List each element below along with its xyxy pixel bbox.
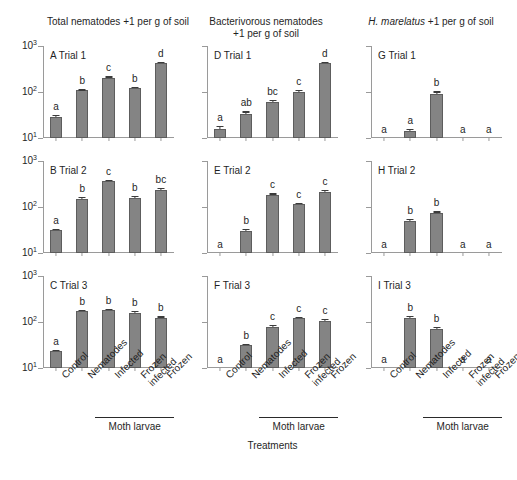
- moth-larvae-bracket: [423, 417, 502, 418]
- x-tick: [462, 253, 463, 256]
- significance-letter: a: [381, 240, 387, 250]
- significance-letter: c: [322, 306, 327, 316]
- y-tick: [38, 322, 43, 323]
- column-title-bacterivorous: Bacterivorous nematodes +1 per g of soil: [186, 16, 346, 40]
- significance-letter: a: [460, 240, 466, 250]
- bar: [240, 231, 252, 253]
- significance-letter: b: [434, 198, 440, 208]
- error-bar-cap: [407, 129, 414, 130]
- y-tick: [202, 207, 207, 208]
- error-bar-cap: [321, 62, 328, 63]
- error-bar-cap: [131, 87, 138, 88]
- panel-b: 101102103B Trial 2abcbbc: [43, 161, 174, 253]
- bar: [266, 102, 278, 138]
- species-name: H. marelatus: [368, 16, 425, 27]
- x-tick: [134, 368, 135, 371]
- x-tick: [384, 253, 385, 256]
- x-tick: [82, 138, 83, 141]
- column-title-bacterivorous-line1: Bacterivorous nematodes: [186, 16, 346, 28]
- significance-letter: c: [296, 190, 301, 200]
- error-bar-cap: [407, 316, 414, 317]
- x-tick-label-line: infected: [146, 380, 154, 388]
- bar: [293, 92, 305, 138]
- significance-letter: c: [106, 63, 111, 73]
- bar: [129, 88, 141, 138]
- significance-letter: b: [408, 206, 414, 216]
- x-tick: [134, 138, 135, 141]
- error-bar-cap: [269, 193, 276, 194]
- significance-letter: a: [381, 355, 387, 365]
- moth-larvae-label: Moth larvae: [437, 421, 489, 432]
- significance-letter: a: [381, 125, 387, 135]
- y-axis-line: [43, 276, 44, 368]
- x-tick-label: Nematodes: [86, 372, 94, 380]
- x-tick-label-line: Nematodes: [250, 372, 258, 380]
- y-tick-label: 102: [22, 202, 37, 212]
- significance-letter: d: [322, 49, 328, 59]
- x-tick-label: Frozeninfected: [302, 372, 318, 388]
- error-bar-cap: [217, 126, 224, 127]
- significance-letter: b: [158, 303, 164, 313]
- x-tick: [246, 138, 247, 141]
- moth-larvae-label: Moth larvae: [273, 421, 325, 432]
- y-tick: [202, 161, 207, 162]
- y-tick: [366, 161, 371, 162]
- significance-letter: a: [217, 113, 223, 123]
- x-tick-label-line: Control: [387, 372, 395, 380]
- error-bar-cap: [157, 316, 164, 317]
- panel-label: G Trial 1: [378, 50, 416, 61]
- x-tick: [436, 368, 437, 371]
- plot-area: 101102103A Trial 1abcbd: [43, 46, 174, 138]
- bar: [155, 63, 167, 138]
- figure-canvas: Total nematodes +1 per g of soil Bacteri…: [0, 0, 517, 480]
- x-tick: [324, 138, 325, 141]
- significance-letter: d: [158, 49, 164, 59]
- x-tick: [108, 368, 109, 371]
- x-tick-label-line: Frozen: [138, 372, 146, 380]
- panel-d: D Trial 1aabbccd: [207, 46, 338, 138]
- error-bar-cap: [157, 62, 164, 63]
- significance-letter: a: [217, 240, 223, 250]
- significance-letter: c: [322, 177, 327, 187]
- panel-g: G Trial 1aabaa: [371, 46, 502, 138]
- x-tick: [462, 138, 463, 141]
- x-tick-label: Infected: [276, 372, 284, 380]
- significance-letter: a: [53, 102, 59, 112]
- significance-letter: b: [434, 78, 440, 88]
- y-tick: [38, 138, 43, 139]
- x-tick: [384, 138, 385, 141]
- y-tick: [366, 253, 371, 254]
- x-tick: [134, 253, 135, 256]
- bar: [76, 199, 88, 253]
- y-tick: [366, 322, 371, 323]
- significance-letter: b: [80, 184, 86, 194]
- plot-area: E Trial 2abccc: [207, 161, 338, 253]
- bar: [319, 63, 331, 138]
- y-tick-label: 102: [22, 87, 37, 97]
- x-tick: [410, 368, 411, 371]
- bar: [430, 213, 442, 253]
- error-bar-cap: [131, 196, 138, 197]
- y-axis-line: [207, 276, 208, 368]
- error-bar-cap: [243, 229, 250, 230]
- error-bar-cap: [243, 111, 250, 112]
- significance-letter: a: [408, 116, 414, 126]
- x-tick-label-line: Control: [223, 372, 231, 380]
- x-tick-label: Nematodes: [414, 372, 422, 380]
- significance-letter: bc: [267, 87, 278, 97]
- error-bar-cap: [433, 327, 440, 328]
- significance-letter: c: [270, 312, 275, 322]
- x-tick-label-line: Control: [59, 372, 67, 380]
- y-tick: [38, 92, 43, 93]
- x-tick: [488, 253, 489, 256]
- significance-letter: a: [53, 216, 59, 226]
- y-tick: [202, 253, 207, 254]
- x-tick-label: Control: [223, 372, 231, 380]
- x-tick: [410, 138, 411, 141]
- x-tick-label: Infected: [112, 372, 120, 380]
- x-tick: [272, 138, 273, 141]
- x-tick: [462, 368, 463, 371]
- moth-larvae-bracket: [95, 417, 174, 418]
- significance-letter: b: [244, 216, 250, 226]
- column-title-bacterivorous-line2: +1 per g of soil: [186, 28, 346, 40]
